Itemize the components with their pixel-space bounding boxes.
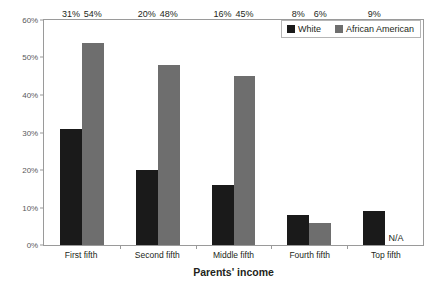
plot-area: 0%10%20%30%40%50%60% 31%54%20%48%16%45%8… <box>43 19 424 246</box>
legend-item[interactable]: African American <box>335 24 414 34</box>
bar-value-label: 8% <box>292 9 305 19</box>
legend-item-label: African American <box>346 24 414 34</box>
bar[interactable]: 6% <box>309 223 331 246</box>
bar-slot: N/A <box>385 20 407 245</box>
bar-value-label: 54% <box>84 9 102 19</box>
x-axis-tick-label: Middle fifth <box>195 250 271 260</box>
bar[interactable]: 8% <box>287 215 309 245</box>
bar-value-label: 6% <box>314 9 327 19</box>
bar-value-label: 9% <box>368 9 381 19</box>
bar-slot: 6% <box>309 20 331 245</box>
x-axis-tick-labels: First fifthSecond fifthMiddle fifthFourt… <box>43 250 424 260</box>
bar-group: 20%48% <box>120 20 196 245</box>
bar-value-label: 48% <box>160 9 178 19</box>
y-axis-tick-label: 20% <box>22 165 44 174</box>
black-square-icon <box>287 25 295 33</box>
x-axis-tick-label: First fifth <box>43 250 119 260</box>
bar[interactable]: 20% <box>136 170 158 245</box>
x-axis-tick-label: Fourth fifth <box>272 250 348 260</box>
bar[interactable]: 16% <box>212 185 234 245</box>
gray-square-icon <box>335 25 343 33</box>
x-axis-tick-label: Second fifth <box>119 250 195 260</box>
bar-value-label: N/A <box>389 233 404 243</box>
bar-chart: 0%10%20%30%40%50%60% 31%54%20%48%16%45%8… <box>0 0 439 287</box>
bar-slot: 48% <box>158 20 180 245</box>
bar-group: 8%6% <box>271 20 347 245</box>
y-axis-tick-label: 30% <box>22 128 44 137</box>
bar-slot: 20% <box>136 20 158 245</box>
bar-slot: 54% <box>82 20 104 245</box>
bar[interactable]: 9% <box>363 211 385 245</box>
bar-slot: 31% <box>60 20 82 245</box>
bar[interactable]: 45% <box>234 76 256 245</box>
y-axis-tick-label: 50% <box>22 53 44 62</box>
legend-item-label: White <box>298 24 321 34</box>
legend: WhiteAfrican American <box>281 20 421 38</box>
y-axis-tick-label: 10% <box>22 203 44 212</box>
bar-group: 31%54% <box>44 20 120 245</box>
bar-group: 9%N/A <box>347 20 423 245</box>
bar-group: 16%45% <box>196 20 272 245</box>
bar[interactable]: 54% <box>82 43 104 246</box>
bar-value-label: 45% <box>235 9 253 19</box>
bar[interactable]: 48% <box>158 65 180 245</box>
y-axis-tick-label: 40% <box>22 90 44 99</box>
bar-slot: 9% <box>363 20 385 245</box>
bar-value-label: 20% <box>138 9 156 19</box>
y-axis-tick-label: 0% <box>27 241 44 250</box>
bar-slot: 8% <box>287 20 309 245</box>
x-axis-tick-label: Top fifth <box>348 250 424 260</box>
bar-slot: 16% <box>212 20 234 245</box>
legend-item[interactable]: White <box>287 24 321 34</box>
y-axis-tick-label: 60% <box>22 16 44 25</box>
bar-slot: 45% <box>234 20 256 245</box>
bar-value-label: 16% <box>214 9 232 19</box>
x-axis-title: Parents' income <box>43 266 424 278</box>
bar-groups: 31%54%20%48%16%45%8%6%9%N/A <box>44 20 423 245</box>
bar[interactable]: 31% <box>60 129 82 245</box>
bar-value-label: 31% <box>62 9 80 19</box>
